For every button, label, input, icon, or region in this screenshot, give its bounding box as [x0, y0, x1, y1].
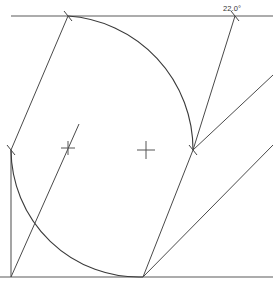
frame-group	[0, 16, 273, 277]
angle-dimension-label: 22.0°	[223, 4, 241, 13]
arc-group	[11, 16, 193, 277]
bottom-vertex-steep-ray-line	[143, 150, 193, 277]
center-mark-left-icon	[61, 141, 75, 155]
left-upper-chord-line	[11, 16, 68, 150]
center-mark-group	[61, 141, 155, 159]
tick-mark-group	[7, 11, 239, 155]
construction-line-group	[11, 16, 273, 277]
center-mark-middle-icon	[137, 141, 155, 159]
small-arc	[11, 150, 143, 277]
large-arc	[68, 16, 193, 150]
technical-drawing-svg: 22.0°	[0, 0, 273, 287]
bottom-vertex-shallow-ray-line	[143, 145, 273, 277]
cad-drawing-canvas: 22.0°	[0, 0, 273, 287]
